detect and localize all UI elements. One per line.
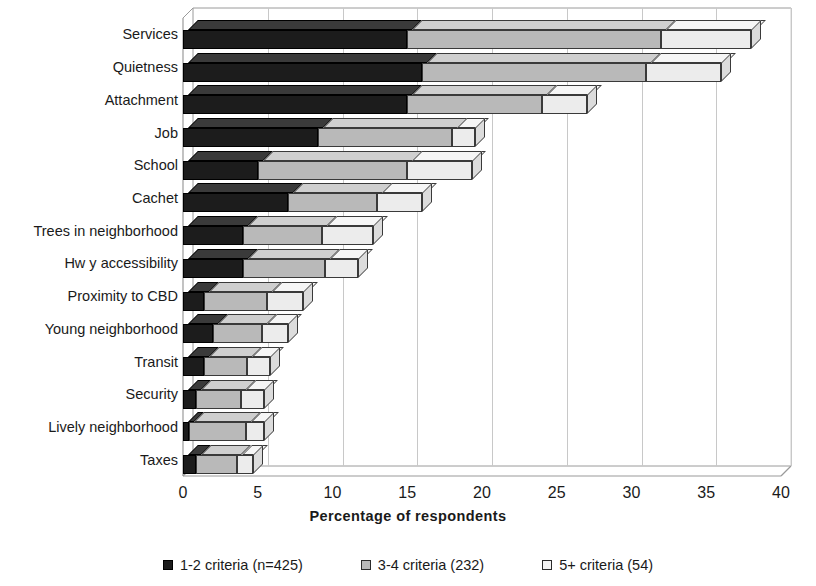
bar-row xyxy=(183,151,781,175)
bar-segment xyxy=(204,357,247,376)
legend-label: 1-2 criteria (n=425) xyxy=(180,557,303,573)
bar-segment xyxy=(452,128,474,147)
bar-segment xyxy=(407,30,661,49)
category-label: Attachment xyxy=(0,93,178,107)
legend-label: 5+ criteria (54) xyxy=(559,557,653,573)
bar-segment xyxy=(262,324,287,343)
category-label: School xyxy=(0,158,178,172)
legend-label: 3-4 criteria (232) xyxy=(378,557,484,573)
bar-segment xyxy=(196,390,241,409)
bar-segment xyxy=(288,193,378,212)
x-axis-title: Percentage of respondents xyxy=(0,508,816,524)
x-tick-label: 5 xyxy=(253,484,262,502)
bar-segment xyxy=(246,422,264,441)
bar-row xyxy=(183,412,781,436)
gridline xyxy=(791,8,792,466)
legend-swatch-icon xyxy=(542,560,552,570)
bar-segment xyxy=(183,292,204,311)
bar-row xyxy=(183,53,781,77)
bar-segment-top-face xyxy=(188,249,258,259)
bar-row xyxy=(183,314,781,338)
bar-row xyxy=(183,216,781,240)
bar-segment-top-face xyxy=(188,85,422,95)
bar-segment xyxy=(243,226,322,245)
bar-segment xyxy=(237,455,253,474)
x-tick-label: 10 xyxy=(324,484,342,502)
bar-segment xyxy=(542,95,587,114)
bar-segment xyxy=(183,390,196,409)
bar-row xyxy=(183,118,781,142)
bar-segment xyxy=(661,30,751,49)
x-tick-label: 0 xyxy=(179,484,188,502)
category-label: Taxes xyxy=(0,453,178,467)
x-tick-label: 40 xyxy=(772,484,790,502)
bar-segment-top-face xyxy=(188,20,422,30)
legend-item: 3-4 criteria (232) xyxy=(361,557,484,573)
bar-segment xyxy=(318,128,453,147)
bar-row xyxy=(183,380,781,404)
category-axis-labels: TaxesLively neighborhoodSecurityTransitY… xyxy=(0,8,178,476)
bar-segment-top-face xyxy=(293,183,393,193)
bar-segment-top-face xyxy=(248,249,340,259)
legend-swatch-icon xyxy=(361,560,371,570)
bar-row xyxy=(183,347,781,371)
bar-segment xyxy=(183,63,422,82)
bar-segment xyxy=(267,292,303,311)
stacked-bar-chart: TaxesLively neighborhoodSecurityTransitY… xyxy=(0,0,816,586)
bar-segment-top-face xyxy=(209,282,282,292)
bar-segment xyxy=(322,226,373,245)
category-label: Trees in neighborhood xyxy=(0,224,178,238)
bar-segment xyxy=(325,259,358,278)
bar-row xyxy=(183,445,781,469)
bar-segment xyxy=(422,63,646,82)
bar-segment xyxy=(241,390,263,409)
value-axis: 0510152025303540 xyxy=(183,476,803,510)
bar-segment xyxy=(407,161,471,180)
bar-segment xyxy=(243,259,325,278)
bar-segment xyxy=(196,455,236,474)
category-label: Transit xyxy=(0,355,178,369)
bar-segment xyxy=(183,455,196,474)
x-tick-label: 20 xyxy=(473,484,491,502)
bar-segment-top-face xyxy=(248,216,337,226)
bars-container xyxy=(183,8,791,476)
bar-segment xyxy=(183,30,407,49)
bar-segment xyxy=(183,357,204,376)
category-label: Security xyxy=(0,387,178,401)
bar-segment-top-face xyxy=(412,85,557,95)
bar-segment xyxy=(258,161,408,180)
category-label: Young neighborhood xyxy=(0,322,178,336)
bar-segment-top-face xyxy=(323,118,468,128)
bar-segment-top-face xyxy=(188,118,333,128)
bar-segment-top-face xyxy=(188,216,258,226)
bar-segment-top-face xyxy=(188,183,303,193)
bar-segment xyxy=(213,324,262,343)
bar-segment xyxy=(183,193,288,212)
legend-swatch-icon xyxy=(163,560,173,570)
chart-legend: 1-2 criteria (n=425)3-4 criteria (232)5+… xyxy=(0,552,816,578)
category-label: Services xyxy=(0,27,178,41)
bar-segment xyxy=(183,128,318,147)
x-tick-label: 15 xyxy=(398,484,416,502)
category-label: Lively neighborhood xyxy=(0,420,178,434)
bar-row xyxy=(183,85,781,109)
category-label: Proximity to CBD xyxy=(0,289,178,303)
bar-segment-top-face xyxy=(188,53,437,63)
bar-segment-top-face xyxy=(412,20,676,30)
bar-segment xyxy=(183,259,243,278)
bar-segment xyxy=(183,95,407,114)
bar-segment xyxy=(377,193,422,212)
bar-segment xyxy=(204,292,267,311)
bar-segment xyxy=(247,357,269,376)
legend-item: 5+ criteria (54) xyxy=(542,557,653,573)
bar-row xyxy=(183,282,781,306)
bar-row xyxy=(183,20,781,44)
x-tick-label: 35 xyxy=(697,484,715,502)
bar-row xyxy=(183,249,781,273)
bar-segment-top-face xyxy=(263,151,423,161)
bar-row xyxy=(183,183,781,207)
category-label: Cachet xyxy=(0,191,178,205)
category-label: Hw y accessibility xyxy=(0,256,178,270)
bar-segment xyxy=(183,226,243,245)
x-tick-label: 30 xyxy=(623,484,641,502)
